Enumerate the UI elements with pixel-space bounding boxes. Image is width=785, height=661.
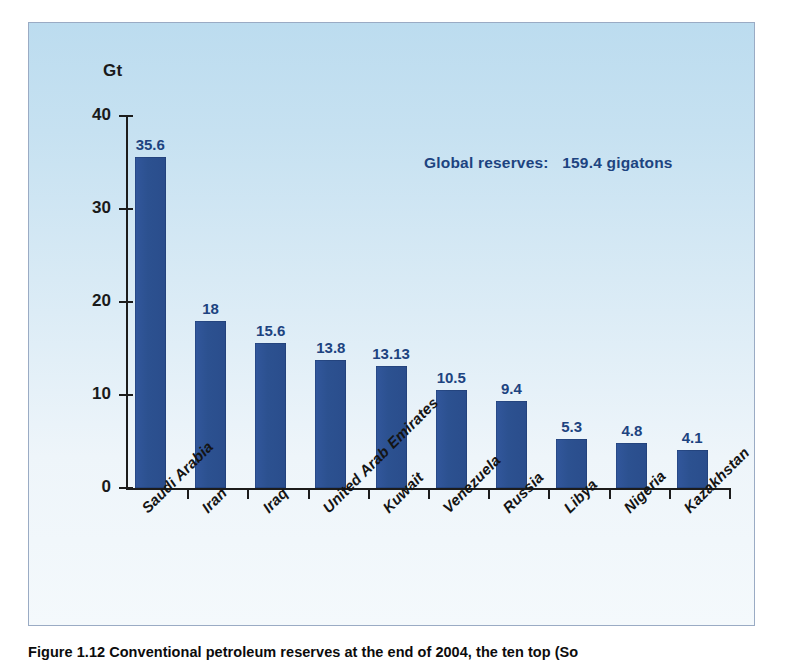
figure-panel: Gt Global reserves: 159.4 gigatons 01020…	[28, 22, 755, 626]
y-tick-label-40: 40	[69, 105, 111, 125]
bar-value-label: 13.13	[351, 345, 431, 362]
bar-value-label: 9.4	[471, 380, 551, 397]
bar-value-label: 18	[170, 300, 250, 317]
y-tick-label-30: 30	[69, 198, 111, 218]
y-tick-label-10: 10	[69, 384, 111, 404]
y-tick-20	[119, 301, 133, 303]
x-tick	[669, 488, 671, 499]
bar[interactable]	[135, 157, 166, 488]
y-tick-40	[119, 115, 133, 117]
bar-value-label: 4.1	[652, 429, 732, 446]
x-tick	[247, 488, 249, 499]
x-tick	[729, 488, 731, 499]
y-tick-label-20: 20	[69, 291, 111, 311]
bar[interactable]	[315, 360, 346, 488]
x-tick	[368, 488, 370, 499]
y-tick-30	[119, 208, 133, 210]
global-reserves-annotation: Global reserves: 159.4 gigatons	[424, 154, 673, 172]
x-tick	[187, 488, 189, 499]
x-tick	[428, 488, 430, 499]
x-tick	[308, 488, 310, 499]
x-tick	[609, 488, 611, 499]
x-tick	[548, 488, 550, 499]
bar[interactable]	[496, 401, 527, 488]
y-axis-title: Gt	[103, 61, 122, 81]
y-tick-0	[119, 487, 133, 489]
y-tick-10	[119, 394, 133, 396]
bar[interactable]	[255, 343, 286, 488]
x-tick	[488, 488, 490, 499]
y-tick-label-0: 0	[69, 477, 111, 497]
bar-value-label: 35.6	[110, 136, 190, 153]
bar-value-label: 15.6	[231, 322, 311, 339]
figure-caption: Figure 1.12 Conventional petroleum reser…	[28, 644, 768, 660]
